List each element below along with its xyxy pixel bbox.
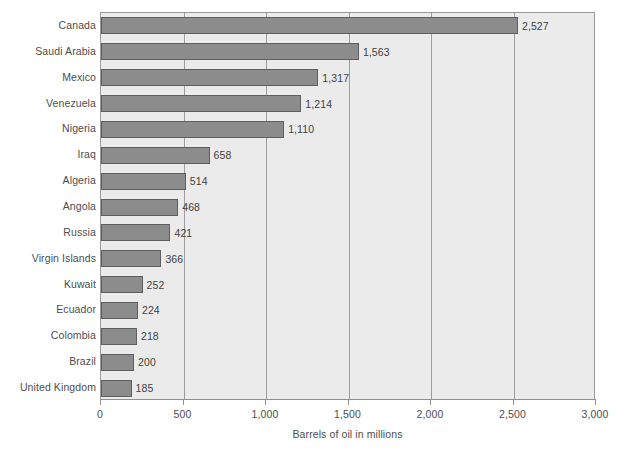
bar-value-label: 185 — [136, 382, 154, 394]
x-axis-tick-label: 1,500 — [334, 408, 361, 420]
bar-value-label: 658 — [214, 149, 232, 161]
bar — [101, 380, 132, 397]
bar-value-label: 366 — [165, 253, 183, 265]
category-label: Venezuela — [0, 97, 96, 109]
bar — [101, 17, 518, 34]
category-label: Angola — [0, 200, 96, 212]
bar-value-label: 252 — [147, 279, 165, 291]
category-label: Brazil — [0, 355, 96, 367]
bar-value-label: 1,317 — [322, 72, 349, 84]
bars-layer: 2,5271,5631,3171,2141,110658514468421366… — [101, 13, 594, 399]
category-label: Algeria — [0, 174, 96, 186]
x-axis-title: Barrels of oil in millions — [100, 428, 595, 440]
bar — [101, 302, 138, 319]
category-label: Mexico — [0, 71, 96, 83]
bar — [101, 43, 359, 60]
bar-value-label: 224 — [142, 304, 160, 316]
x-axis-tick — [430, 399, 431, 405]
bar-value-label: 514 — [190, 175, 208, 187]
bar — [101, 199, 178, 216]
x-axis-tick — [183, 399, 184, 405]
bar-value-label: 2,527 — [522, 20, 549, 32]
bar-value-label: 218 — [141, 330, 159, 342]
bar-value-label: 200 — [138, 356, 156, 368]
x-axis-tick-label: 2,000 — [417, 408, 444, 420]
bar — [101, 224, 170, 241]
bar-value-label: 468 — [182, 201, 200, 213]
category-label: Colombia — [0, 329, 96, 341]
x-axis-tick-label: 3,000 — [582, 408, 609, 420]
bar — [101, 69, 318, 86]
bar-chart-figure: CanadaSaudi ArabiaMexicoVenezuelaNigeria… — [0, 0, 627, 457]
category-label: Ecuador — [0, 303, 96, 315]
x-axis-tick — [348, 399, 349, 405]
category-label: United Kingdom — [0, 381, 96, 393]
bar-value-label: 1,563 — [363, 46, 390, 58]
x-axis-tick-label: 0 — [97, 408, 103, 420]
bar — [101, 328, 137, 345]
bar — [101, 121, 284, 138]
category-label: Iraq — [0, 148, 96, 160]
bar — [101, 95, 301, 112]
bar — [101, 250, 161, 267]
x-axis: 05001,0001,5002,0002,5003,000 — [100, 399, 595, 400]
bar — [101, 276, 143, 293]
x-axis-tick — [595, 399, 596, 405]
x-axis-tick — [265, 399, 266, 405]
category-label: Russia — [0, 226, 96, 238]
x-axis-tick — [513, 399, 514, 405]
category-label: Nigeria — [0, 122, 96, 134]
category-label: Kuwait — [0, 278, 96, 290]
category-label: Canada — [0, 19, 96, 31]
x-axis-tick-label: 500 — [174, 408, 192, 420]
bar — [101, 354, 134, 371]
bar — [101, 173, 186, 190]
category-label: Virgin Islands — [0, 252, 96, 264]
category-axis: CanadaSaudi ArabiaMexicoVenezuelaNigeria… — [0, 12, 96, 400]
category-label: Saudi Arabia — [0, 45, 96, 57]
x-axis-tick-label: 2,500 — [499, 408, 526, 420]
bar-value-label: 1,110 — [288, 123, 314, 135]
x-axis-tick — [100, 399, 101, 405]
bar-value-label: 1,214 — [305, 98, 332, 110]
bar — [101, 147, 210, 164]
x-axis-tick-label: 1,000 — [252, 408, 279, 420]
plot-area: 2,5271,5631,3171,2141,110658514468421366… — [100, 12, 595, 400]
bar-value-label: 421 — [174, 227, 192, 239]
